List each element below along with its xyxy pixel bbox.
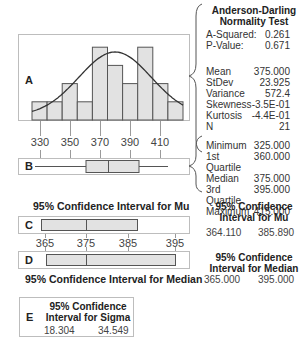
ci-mu-heading-line2: Interval for Mu — [206, 212, 302, 223]
axis-tick — [130, 121, 131, 136]
axis-tick — [160, 121, 161, 136]
normality-heading-line1: Anderson-Darling — [206, 5, 302, 16]
axis-tick — [100, 121, 101, 136]
histogram-bar — [62, 84, 77, 120]
stat-value: 375.000 — [254, 66, 290, 77]
descriptive-stats: Mean375.000 StDev23.925 Variance572.4 Sk… — [206, 66, 290, 132]
stat-value: 23.925 — [259, 77, 290, 88]
stat-value: -4.4E-01 — [252, 110, 290, 121]
ci-mu-heading-line1: 95% Confidence — [206, 201, 302, 212]
stat-label: N — [206, 121, 213, 132]
ci-mu-heading: 95% Confidence Interval for Mu — [206, 201, 302, 223]
ci-sigma-high: 34.549 — [98, 325, 129, 336]
stat-label: Mean — [206, 66, 231, 77]
axis-tick-label: 390 — [115, 136, 145, 148]
stat-label: 1st Quartile — [206, 151, 254, 173]
ci-mu-panel: C — [18, 216, 190, 234]
stat-label: P-Value: — [206, 40, 244, 51]
ci-median-low: 365.000 — [204, 274, 240, 285]
axis-tick — [70, 150, 71, 158]
ci-median-bar — [46, 254, 176, 266]
stat-label: Kurtosis — [206, 110, 242, 121]
ci-mu-high: 385.890 — [258, 227, 294, 238]
axis-tick — [130, 150, 131, 158]
histogram-bar — [153, 84, 168, 120]
stat-value: 0.261 — [265, 29, 290, 40]
ci-median-panel: D — [18, 251, 190, 269]
histogram-bar — [77, 102, 92, 120]
ci-median-heading: 95% Confidence Interval for Median — [206, 252, 302, 274]
stat-value: 21 — [279, 121, 290, 132]
axis-tick-label: 370 — [85, 136, 115, 148]
histogram-panel: A — [18, 34, 190, 121]
stat-label: Minimum — [206, 140, 247, 151]
stat-label: Variance — [206, 88, 245, 99]
ci-median-high: 395.000 — [258, 274, 294, 285]
ci-sigma-panel: E 95% Confidence Interval for Sigma 18.3… — [19, 297, 134, 337]
stat-value: 325.000 — [254, 140, 290, 151]
histogram-bar — [168, 102, 183, 120]
axis-tick-label: 350 — [55, 136, 85, 148]
stat-label: A-Squared: — [206, 29, 257, 40]
boxplot-panel: B — [18, 158, 190, 175]
ci-mu-center-line — [86, 219, 87, 231]
axis-tick-label: 410 — [145, 136, 175, 148]
stat-value: 375.000 — [254, 173, 290, 184]
axis-tick — [70, 121, 71, 136]
brace-icon — [186, 134, 206, 194]
ci-sigma-heading-line1: 95% Confidence — [44, 301, 132, 312]
normality-heading-line2: Normality Test — [206, 16, 302, 27]
axis-tick — [100, 150, 101, 158]
ci-sigma-low: 18.304 — [44, 325, 75, 336]
ci-median-heading-line2: Interval for Median — [206, 263, 302, 274]
ci-mu-low: 364.110 — [206, 227, 241, 238]
boxplot-chart — [18, 158, 190, 175]
histogram-chart — [18, 34, 190, 121]
stat-value: -3.5E-01 — [252, 99, 290, 110]
histogram-bar — [108, 65, 123, 120]
stat-value: 0.671 — [265, 40, 290, 51]
ci-median-title: 95% Confidence Interval for Median — [25, 273, 202, 285]
panel-label-c: C — [25, 219, 33, 231]
stat-label: StDev — [206, 77, 233, 88]
axis-tick — [160, 150, 161, 158]
stat-value: 360.000 — [254, 151, 290, 173]
ci-sigma-heading: 95% Confidence Interval for Sigma — [44, 301, 132, 323]
axis-tick — [40, 121, 41, 136]
ci-sigma-heading-line2: Interval for Sigma — [44, 312, 132, 323]
histogram-bar — [138, 47, 153, 120]
axis-tick — [40, 150, 41, 158]
panel-label-d: D — [25, 254, 33, 266]
ci-median-heading-line1: 95% Confidence — [206, 252, 302, 263]
histogram-bar — [123, 84, 138, 120]
panel-label-e: E — [26, 311, 33, 323]
normality-heading: Anderson-Darling Normality Test — [206, 5, 302, 27]
stat-label: Median — [206, 173, 239, 184]
stat-label: Skewness — [206, 99, 252, 110]
stat-value: 572.4 — [265, 88, 290, 99]
histogram-bar — [47, 102, 62, 120]
ci-mu-bar — [41, 219, 138, 231]
ci-mu-title: 95% Confidence Interval for Mu — [33, 200, 189, 212]
normality-stats: A-Squared:0.261 P-Value:0.671 — [206, 29, 290, 51]
ci-median-center-line — [86, 254, 87, 266]
axis-tick-label: 330 — [25, 136, 55, 148]
